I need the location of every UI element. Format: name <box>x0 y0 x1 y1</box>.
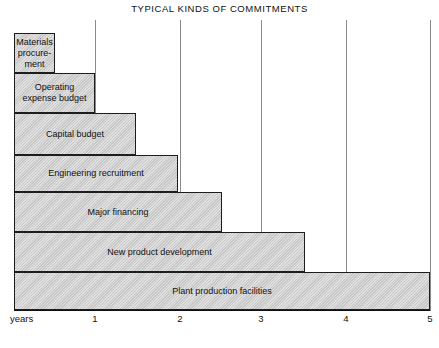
commitments-chart: TYPICAL KINDS OF COMMITMENTS Materials p… <box>0 0 439 348</box>
bar-1: Materials procure- ment <box>14 33 55 73</box>
bar-6: New product development <box>14 232 305 272</box>
bar-2: Operating expense budget <box>14 73 95 113</box>
gridline-year-5 <box>430 20 431 311</box>
bar-7: Plant production facilities <box>14 272 430 310</box>
bar-5: Major financing <box>14 192 222 232</box>
tick-label-5: 5 <box>418 313 439 324</box>
x-axis-label: years <box>10 313 33 324</box>
bar-4: Engineering recruitment <box>14 155 178 192</box>
bar-label-1: Materials procure- ment <box>14 37 55 70</box>
tick-label-2: 2 <box>168 313 192 324</box>
x-axis-line <box>14 310 430 311</box>
bar-label-3: Capital budget <box>43 129 107 140</box>
tick-label-4: 4 <box>334 313 358 324</box>
gridline-year-4 <box>346 20 347 311</box>
bar-3: Capital budget <box>14 113 136 155</box>
tick-label-1: 1 <box>83 313 107 324</box>
bar-label-4: Engineering recruitment <box>45 168 147 179</box>
bar-label-6: New product development <box>104 247 215 258</box>
bar-label-2: Operating expense budget <box>19 82 89 104</box>
bar-label-5: Major financing <box>84 207 151 218</box>
bar-label-7: Plant production facilities <box>169 286 275 297</box>
plot-area: Materials procure- mentOperating expense… <box>0 0 439 348</box>
tick-label-3: 3 <box>249 313 273 324</box>
